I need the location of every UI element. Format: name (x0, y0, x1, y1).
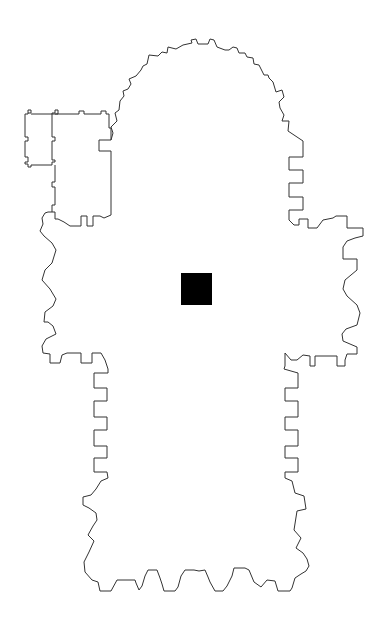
church-outline (40, 39, 363, 591)
central-marker (181, 273, 212, 305)
floor-plan (0, 0, 387, 625)
annex-room-left (25, 110, 58, 167)
annex-room-right (52, 111, 111, 226)
